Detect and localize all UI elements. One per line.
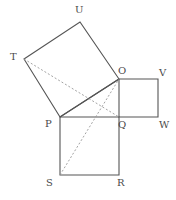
squares-group: [24, 22, 158, 175]
vertex-label-V: V: [159, 68, 166, 78]
vertex-label-P: P: [45, 119, 52, 129]
vertex-label-U: U: [75, 5, 83, 15]
dashed-S-O-line: [60, 79, 119, 175]
vertex-label-T: T: [10, 52, 17, 62]
square-small-OVWQ: [119, 79, 158, 117]
vertex-label-Q: Q: [118, 120, 126, 130]
vertex-label-W: W: [159, 120, 169, 130]
vertex-label-S: S: [46, 178, 53, 188]
square-large-PQRS: [60, 117, 119, 175]
vertex-label-O: O: [118, 66, 126, 76]
vertex-label-R: R: [117, 178, 125, 188]
geometry-figure: U T O V P Q W S R: [0, 0, 176, 200]
geometry-canvas: [0, 0, 176, 200]
